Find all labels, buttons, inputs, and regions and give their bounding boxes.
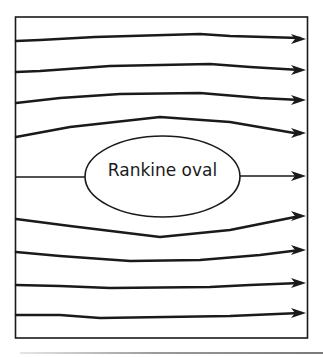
streamline-s4 xyxy=(16,117,300,137)
streamline-s9 xyxy=(16,313,300,318)
streamline-s8 xyxy=(16,283,300,288)
streamline-s3 xyxy=(16,93,300,103)
streamline-s6 xyxy=(16,216,300,237)
bottom-rule xyxy=(20,352,323,354)
streamline-s2 xyxy=(16,64,300,72)
streamline-s1 xyxy=(16,34,300,41)
oval-label: Rankine oval xyxy=(85,160,240,180)
streamline-s7 xyxy=(16,250,300,261)
arrowhead-icon xyxy=(291,211,306,221)
